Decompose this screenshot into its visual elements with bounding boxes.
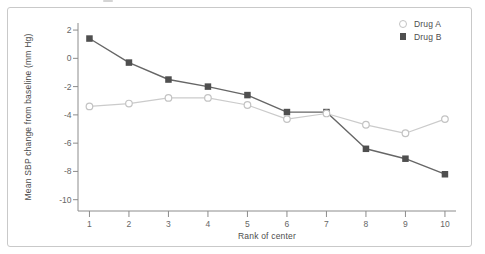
y-axis-label: Mean SBP change from baseline (mm Hg) [22,17,34,217]
x-tick-label: 5 [245,219,250,229]
legend: Drug A Drug B [397,17,442,43]
y-tick-label: -8 [64,166,72,176]
x-tick-label: 7 [324,219,329,229]
y-tick-label: -6 [64,138,72,148]
series-drug-b-marker [402,155,409,162]
x-tick-label: 2 [127,219,132,229]
series-drug-a-marker [363,121,370,128]
series-drug-a-marker [402,130,409,137]
x-tick-label: 9 [403,219,408,229]
series-drug-b-marker [284,109,291,116]
series-drug-a-marker [86,103,93,110]
x-tick-label: 4 [206,219,211,229]
series-drug-b-marker [165,76,172,83]
legend-label-drug-b: Drug B [414,32,442,42]
series-drug-b-marker [244,92,251,99]
legend-label-drug-a: Drug A [414,19,441,29]
series-drug-b-marker [205,83,212,90]
series-drug-b-marker [126,59,132,66]
y-tick-label: -10 [59,195,72,205]
y-tick-label: 0 [67,53,72,63]
series-drug-a-marker [442,116,449,123]
y-tick-label: 2 [67,25,72,35]
x-axis-label: Rank of center [78,231,456,241]
x-tick-label: 10 [440,219,450,229]
series-drug-b-line [90,39,445,175]
series-drug-a-marker [244,102,251,109]
filled-square-icon [400,33,407,40]
y-tick-label: -2 [64,82,72,92]
series-drug-a-marker [323,110,330,117]
series-drug-b-marker [363,146,370,153]
x-tick-label: 8 [364,219,369,229]
x-tick-label: 6 [285,219,290,229]
series-drug-a-marker [126,100,133,107]
legend-marker-cell [397,20,409,28]
x-tick-label: 3 [166,219,171,229]
legend-marker-cell [397,33,409,40]
open-circle-icon [399,20,407,28]
legend-item-drug-a: Drug A [397,17,442,30]
x-tick-label: 1 [87,219,92,229]
series-drug-a-marker [284,116,291,123]
legend-item-drug-b: Drug B [397,30,442,43]
series-drug-b-marker [442,171,449,178]
series-drug-a-marker [205,95,212,102]
series-drug-b-marker [86,35,93,42]
y-tick-label: -4 [64,110,72,120]
series-drug-a-marker [165,95,172,102]
